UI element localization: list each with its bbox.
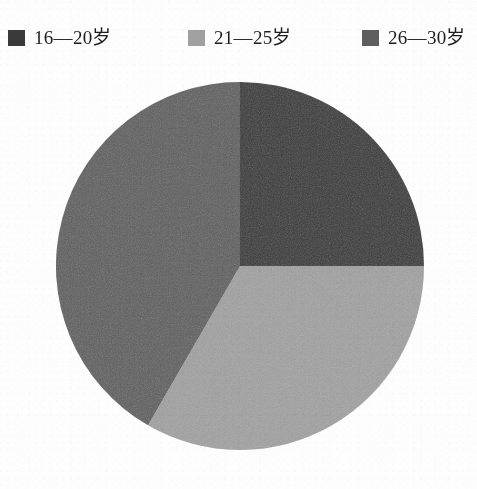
pie-chart: [56, 82, 424, 450]
legend-item-21-25[interactable]: 21—25岁: [188, 28, 292, 47]
legend-item-label: 16—20岁: [34, 28, 112, 47]
legend-item-16-20[interactable]: 16—20岁: [8, 28, 112, 47]
legend-swatch-icon: [188, 30, 205, 46]
pie-grain-overlay: [56, 82, 424, 450]
legend-item-label: 26—30岁: [388, 28, 466, 47]
pie-chart-figure: 16—20岁 21—25岁 26—30岁: [0, 0, 477, 489]
pie-chart-svg: [56, 82, 424, 450]
legend-item-label: 21—25岁: [214, 28, 292, 47]
legend-swatch-icon: [8, 30, 25, 46]
legend-swatch-icon: [362, 30, 379, 46]
chart-legend: 16—20岁 21—25岁 26—30岁: [0, 28, 477, 64]
legend-item-26-30[interactable]: 26—30岁: [362, 28, 466, 47]
